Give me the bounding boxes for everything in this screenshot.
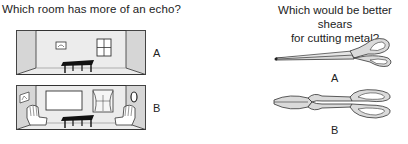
short-blade-tin-snips-icon[interactable] [272, 88, 400, 126]
option-label-b: B [153, 102, 160, 114]
furnished-room-icon[interactable] [16, 85, 146, 131]
option-label-b: B [331, 124, 338, 136]
option-label-a: A [153, 47, 160, 59]
long-blade-scissors-icon[interactable] [270, 36, 400, 72]
question-shears-line1: Which would be better shears [262, 3, 408, 31]
question-echo-text: Which room has more of an echo? [2, 3, 181, 15]
option-label-a: A [331, 72, 338, 84]
sparse-room-icon[interactable] [16, 30, 146, 76]
